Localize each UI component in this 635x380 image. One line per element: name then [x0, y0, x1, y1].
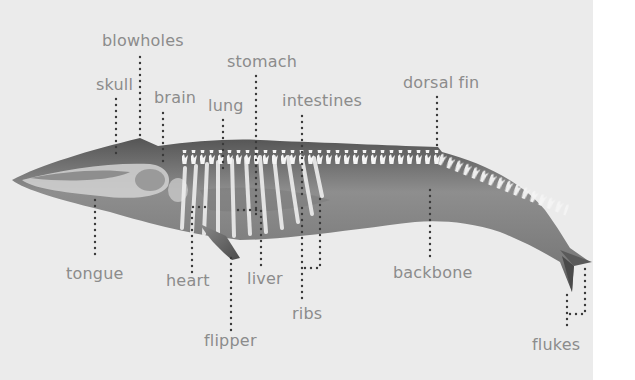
label-blowholes: blowholes [102, 33, 184, 49]
label-backbone: backbone [393, 265, 473, 281]
label-intestines: intestines [282, 93, 362, 109]
label-lung: lung [208, 98, 244, 114]
label-brain: brain [154, 90, 196, 106]
label-heart: heart [166, 273, 210, 289]
label-flukes: flukes [532, 337, 580, 353]
label-ribs: ribs [292, 306, 322, 322]
label-skull: skull [96, 77, 133, 93]
whale-diagram [0, 0, 635, 380]
label-flipper: flipper [204, 333, 257, 349]
label-liver: liver [247, 271, 283, 287]
label-dorsal-fin: dorsal fin [403, 75, 479, 91]
label-stomach: stomach [227, 54, 297, 70]
label-tongue: tongue [66, 266, 124, 282]
